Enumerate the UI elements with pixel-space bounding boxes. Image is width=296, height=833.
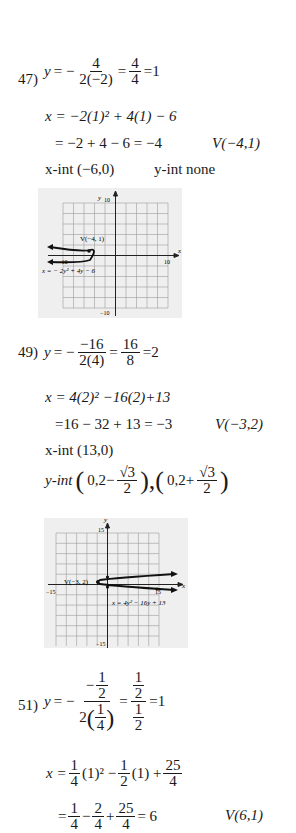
y-intercept: y-int none	[154, 162, 215, 177]
svg-text:−10: −10	[100, 310, 109, 316]
problem-number: 49)	[18, 345, 38, 360]
problem-number: 51)	[18, 698, 38, 713]
x-equation-line1: x = −2(1)² + 4(1) − 6	[45, 109, 177, 124]
x-intercept: x-int (−6,0)	[45, 162, 114, 177]
svg-text:15: 15	[98, 527, 104, 533]
equation-annotation: x = − 2y² + 4y − 6	[41, 267, 96, 275]
vertex-y-equation: y = − −162(4) = 168 =2	[44, 337, 159, 368]
x-equation-line1: x = 4(2)² −16(2)+13	[45, 390, 170, 405]
x-equation-line2: = 14 − 24 + 254 = 6	[58, 801, 157, 832]
svg-text:−15: −15	[96, 641, 105, 647]
equation-annotation: x = 4y² − 16y + 13	[111, 599, 166, 607]
vertex-annotation: V(−4, 1)	[80, 235, 105, 243]
graph-49: y x 15 −15 15 −15 V(−3, 2) x = 4y² − 16y…	[44, 518, 188, 648]
vertex-label: V(6,1)	[225, 808, 263, 823]
vertex-label: V(−3,2)	[215, 417, 263, 432]
svg-text:−15: −15	[46, 589, 55, 595]
x-axis-label: x	[177, 247, 182, 255]
x-intercept: x-int (13,0)	[45, 443, 113, 458]
svg-text:15: 15	[155, 589, 161, 595]
svg-text:10: 10	[164, 259, 170, 265]
vertex-label: V(−4,1)	[212, 136, 260, 151]
x-equation-line1: x = 14 (1)² − 12 (1) + 254	[46, 758, 182, 789]
y-axis-label: y	[97, 194, 102, 202]
vertex-y-equation: y = − 42(−2) = 44 =1	[44, 56, 160, 87]
vertex-annotation: V(−3, 2)	[64, 578, 89, 586]
x-equation-line2: =16 − 32 + 13 = −3	[55, 417, 172, 432]
x-axis-label: x	[181, 582, 186, 590]
graph-47: y x 10 −10 10 −10 V(−4, 1) x = − 2y² + 4…	[38, 188, 182, 318]
svg-text:−10: −10	[58, 259, 67, 265]
vertex-y-equation: y = − −12 2(14) = 12 12 =1	[44, 670, 165, 733]
problem-number: 47)	[18, 72, 38, 87]
svg-text:10: 10	[104, 197, 110, 203]
x-equation-line2: = −2 + 4 − 6 = −4	[55, 136, 162, 151]
y-intercept: y-int (0,2− √32 ),(0,2+ √32 )	[45, 465, 229, 496]
